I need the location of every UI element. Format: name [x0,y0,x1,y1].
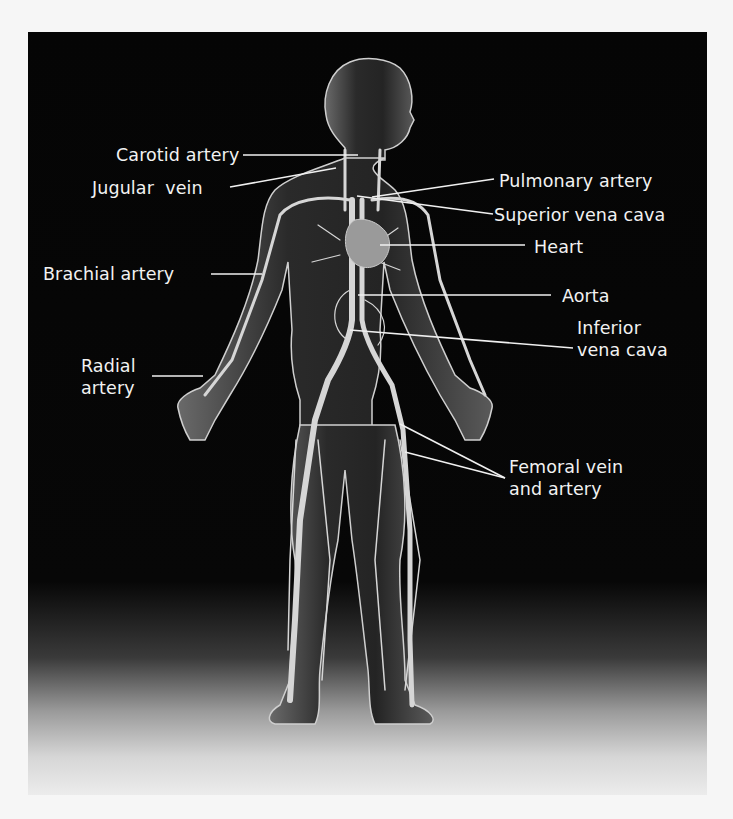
label-inferior-vena-cava: Inferior vena cava [577,317,668,361]
label-femoral-vein-artery: Femoral vein and artery [509,456,623,500]
label-heart: Heart [534,236,583,258]
label-radial-artery: Radial artery [81,355,136,399]
label-aorta: Aorta [562,285,610,307]
label-jugular-vein: Jugular vein [92,177,203,199]
diagram-panel: Carotid artery Jugular vein Brachial art… [28,32,707,795]
label-carotid-artery: Carotid artery [116,144,239,166]
label-pulmonary-artery: Pulmonary artery [499,170,653,192]
label-brachial-artery: Brachial artery [43,263,174,285]
label-superior-vena-cava: Superior vena cava [494,204,665,226]
